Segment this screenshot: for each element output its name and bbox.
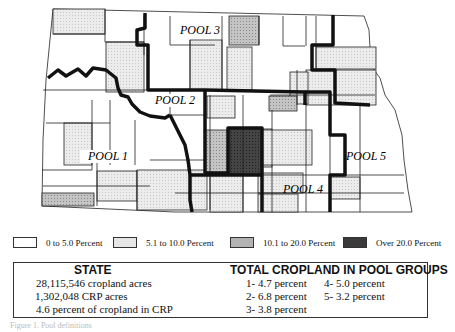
county: [207, 96, 235, 118]
state-crp-acres: 1,302,048 CRP acres: [35, 290, 127, 302]
pool-item-1: 1- 4.7 percent: [246, 277, 307, 289]
county: [330, 177, 360, 199]
pool-groups-title: TOTAL CROPLAND IN POOL GROUPS: [230, 263, 448, 277]
legend-item: 5.1 to 10.0 Percent: [113, 237, 214, 248]
state-crp-percent: 4.6 percent of cropland in CRP: [36, 303, 173, 315]
north-dakota-pool-map: POOL 1 POOL 2 POOL 3 POOL 4 POOL 5: [0, 0, 455, 230]
pool-label-1: POOL 1: [87, 149, 128, 163]
pool-label-5: POOL 5: [345, 149, 386, 163]
legend-swatch-0-5: [13, 237, 37, 248]
legend-item: 0 to 5.0 Percent: [13, 237, 103, 248]
pool-item-2: 2- 6.8 percent: [246, 290, 307, 302]
legend-swatch-over-20: [343, 237, 367, 248]
county: [42, 193, 94, 206]
map-legend: 0 to 5.0 Percent 5.1 to 10.0 Percent 10.…: [0, 230, 455, 258]
county: [229, 16, 259, 45]
county: [262, 130, 312, 165]
county: [230, 128, 262, 174]
county: [258, 194, 298, 212]
pool-item-3: 3- 3.8 percent: [246, 303, 307, 315]
pool-label-3: POOL 3: [179, 23, 220, 37]
figure-caption: Figure 1. Pool definitions: [10, 321, 92, 330]
legend-swatch-5-10: [113, 237, 137, 248]
county: [306, 70, 376, 105]
pool-item-5: 5- 3.2 percent: [324, 290, 385, 302]
county: [106, 42, 144, 92]
summary-box: STATE 28,115,546 cropland acres 1,302,04…: [13, 262, 428, 318]
legend-label: 5.1 to 10.0 Percent: [146, 238, 214, 248]
legend-label: 10.1 to 20.0 Percent: [263, 238, 335, 248]
county: [316, 47, 376, 69]
legend-label: Over 20.0 Percent: [376, 238, 441, 248]
legend-label: 0 to 5.0 Percent: [46, 238, 103, 248]
pool-label-2: POOL 2: [154, 93, 195, 107]
legend-item: Over 20.0 Percent: [343, 237, 441, 248]
county: [53, 9, 105, 34]
county: [227, 47, 252, 90]
state-cropland-acres: 28,115,546 cropland acres: [36, 277, 152, 289]
state-title: STATE: [74, 263, 112, 277]
county: [210, 175, 243, 212]
county: [190, 40, 222, 90]
legend-item: 10.1 to 20.0 Percent: [230, 237, 335, 248]
pool-item-4: 4- 5.0 percent: [324, 277, 385, 289]
county: [269, 96, 297, 111]
legend-swatch-10-20: [230, 237, 254, 248]
pool-label-4: POOL 4: [282, 182, 323, 196]
